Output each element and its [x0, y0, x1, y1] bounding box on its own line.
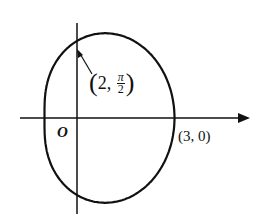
close-paren: ): [126, 70, 135, 96]
theta-denominator: 2: [118, 84, 124, 95]
comma: ,: [107, 73, 112, 94]
x-axis-arrow-icon: [238, 113, 250, 123]
point-label-3-0: (3, 0): [178, 128, 211, 145]
theta-fraction: π 2: [117, 72, 125, 95]
origin-label: O: [57, 124, 68, 141]
open-paren: (: [89, 70, 98, 96]
point-label-2-pi-over-2: ( 2, π 2 ): [89, 70, 134, 96]
r-value: 2: [98, 73, 107, 94]
polar-diagram: [0, 0, 263, 218]
